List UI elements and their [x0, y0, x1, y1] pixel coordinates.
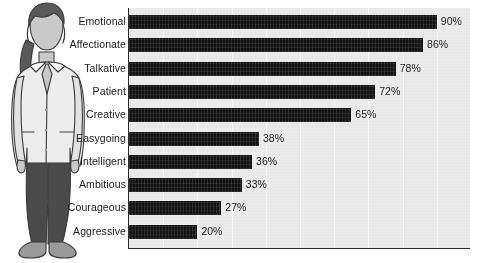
- bar: [129, 85, 375, 99]
- bar: [129, 225, 197, 239]
- value-label: 36%: [256, 156, 277, 167]
- category-label: Affectionate: [70, 39, 126, 50]
- bar-chart: EmotionalAffectionateTalkativePatientCre…: [0, 0, 479, 263]
- plot-area: [128, 8, 470, 249]
- value-label: 20%: [201, 226, 222, 237]
- value-label: 27%: [225, 202, 246, 213]
- bar: [129, 108, 351, 122]
- bar: [129, 15, 437, 29]
- category-label: Creative: [86, 109, 126, 120]
- bar: [129, 62, 396, 76]
- bar: [129, 155, 252, 169]
- bar: [129, 132, 259, 146]
- value-label: 72%: [379, 86, 400, 97]
- category-label: Emotional: [78, 16, 126, 27]
- category-label: Intelligent: [80, 156, 126, 167]
- category-label: Easygoing: [76, 133, 126, 144]
- bar: [129, 201, 221, 215]
- value-label: 65%: [355, 109, 376, 120]
- category-label: Courageous: [68, 202, 126, 213]
- value-label: 90%: [441, 16, 462, 27]
- value-label: 78%: [400, 63, 421, 74]
- value-label: 86%: [427, 39, 448, 50]
- bar: [129, 38, 423, 52]
- category-label: Aggressive: [73, 226, 126, 237]
- category-label: Talkative: [84, 63, 126, 74]
- category-label: Ambitious: [79, 179, 126, 190]
- chart-page: EmotionalAffectionateTalkativePatientCre…: [0, 0, 479, 263]
- bar: [129, 178, 242, 192]
- category-label: Patient: [93, 86, 126, 97]
- value-label: 33%: [246, 179, 267, 190]
- value-label: 38%: [263, 133, 284, 144]
